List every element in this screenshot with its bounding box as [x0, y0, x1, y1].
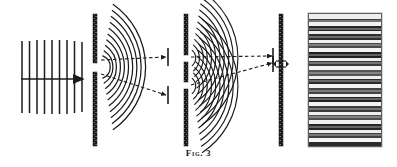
figure-caption: Fig.3 [0, 148, 397, 158]
figure-caption-number: 3 [203, 148, 211, 158]
fringe-photograph [308, 13, 382, 147]
figure-container: Fig.3 [0, 0, 397, 167]
physics-diagram [0, 0, 397, 167]
double-slit-barrier [184, 14, 188, 146]
single-slit-barrier [93, 14, 97, 146]
figure-caption-label: Fig. [186, 148, 203, 158]
fringe-bands [309, 14, 381, 146]
